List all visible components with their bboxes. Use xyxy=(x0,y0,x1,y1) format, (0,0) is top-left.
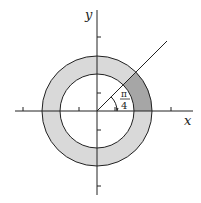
angle-denominator: 4 xyxy=(121,100,127,111)
y-axis-label: y xyxy=(84,7,93,22)
angle-arc xyxy=(111,97,117,111)
angle-numerator: π xyxy=(121,89,127,99)
polar-diagram: y x π 4 xyxy=(0,0,201,203)
x-axis-label: x xyxy=(184,113,192,128)
